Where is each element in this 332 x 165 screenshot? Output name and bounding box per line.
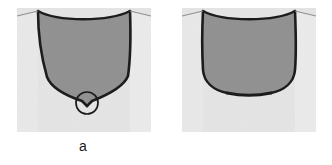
panel-a: a xyxy=(0,0,166,138)
panel-a-image xyxy=(0,0,166,138)
panel-a-caption: a xyxy=(0,138,166,154)
panel-b-image xyxy=(166,0,332,138)
panel-b: b xyxy=(166,0,332,138)
figure-root: a xyxy=(0,0,332,165)
